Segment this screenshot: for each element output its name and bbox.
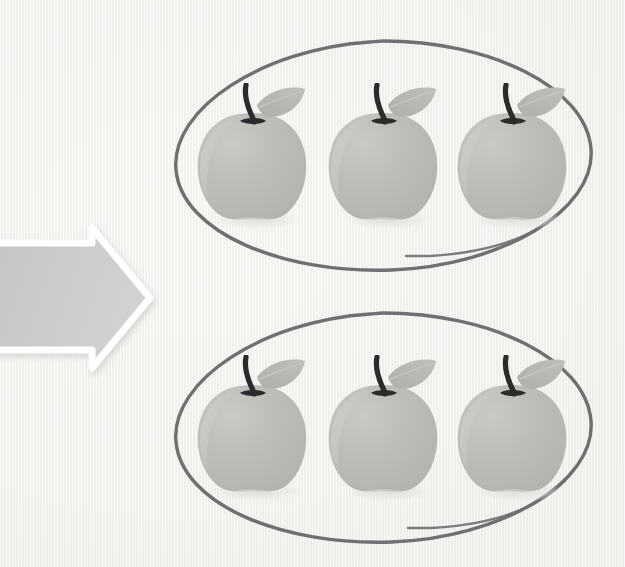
group-2 — [176, 313, 591, 542]
group-2-apples — [198, 357, 567, 502]
scene-container — [0, 0, 625, 567]
apple-2-1 — [198, 357, 307, 502]
apple-2-3 — [458, 357, 567, 502]
apple-2-2 — [329, 357, 438, 502]
right-arrow — [0, 228, 150, 368]
apple-1-2 — [329, 85, 438, 230]
arrow-shape — [0, 228, 150, 368]
apple-1-1 — [198, 85, 307, 230]
illustration-svg — [0, 0, 625, 567]
group-1 — [176, 41, 591, 270]
group-1-apples — [198, 85, 567, 230]
illustration-canvas — [0, 0, 625, 567]
apple-1-3 — [458, 85, 567, 230]
